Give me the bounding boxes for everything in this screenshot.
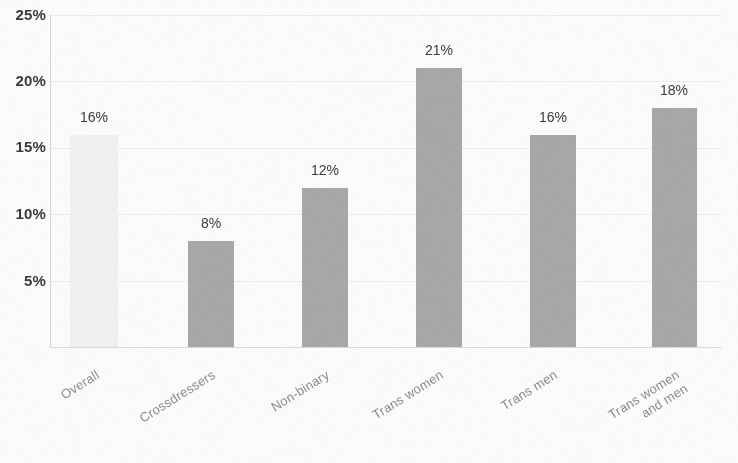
bar-crossdressers[interactable]	[188, 241, 234, 347]
x-category-label-trans-men: Trans men	[474, 367, 561, 430]
bar-trans-women-and-men[interactable]	[652, 108, 697, 347]
gridline-5	[50, 281, 722, 282]
bar-value-trans-women-and-men: 18%	[638, 82, 710, 98]
bar-value-crossdressers: 8%	[175, 215, 247, 231]
plot-area: 16% 8% 12% 21% 16% 18% Overall Crossdres…	[50, 15, 722, 347]
y-axis-line	[50, 15, 51, 347]
y-tick-label-25: 25%	[0, 6, 46, 23]
y-tick-label-20: 20%	[0, 72, 46, 89]
gridline-20	[50, 81, 722, 82]
x-axis-line	[50, 347, 722, 348]
bar-value-trans-women: 21%	[403, 42, 475, 58]
y-tick-label-10: 10%	[0, 205, 46, 222]
bar-value-non-binary: 12%	[289, 162, 361, 178]
x-category-label-trans-women-and-men: Trans women and men	[593, 367, 692, 445]
bar-non-binary[interactable]	[302, 188, 348, 347]
gridline-15	[50, 148, 722, 149]
x-category-label-non-binary: Non-binary	[243, 367, 333, 432]
gridline-10	[50, 214, 722, 215]
x-category-label-overall: Overall	[13, 367, 103, 432]
bar-trans-men[interactable]	[530, 135, 576, 347]
x-category-label-trans-women: Trans women	[357, 367, 447, 432]
gridline-25	[50, 15, 722, 16]
x-category-label-crossdressers: Crossdressers	[127, 367, 219, 433]
bar-trans-women[interactable]	[416, 68, 462, 347]
y-tick-label-15: 15%	[0, 138, 46, 155]
bar-value-trans-men: 16%	[517, 109, 589, 125]
bar-overall[interactable]	[70, 135, 118, 347]
bar-chart: 25% 20% 15% 10% 5% 16% 8% 12% 21% 16% 18…	[0, 0, 738, 463]
y-tick-label-5: 5%	[0, 272, 46, 289]
bar-value-overall: 16%	[58, 109, 130, 125]
